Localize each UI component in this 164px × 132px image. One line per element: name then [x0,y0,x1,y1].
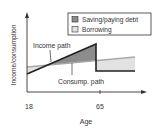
consumption-path-annotation: Consump. path [58,78,104,86]
x-axis-arrow-icon [141,90,147,94]
legend-swatch-borrowing [72,27,78,33]
x-tick-label-18: 18 [25,103,33,110]
income-path-leader [50,50,51,62]
chart: 18 65 Age Income/consumption Income path… [0,0,164,132]
legend: Saving/paying debt Borrowing [68,13,151,35]
y-axis-label: Income/consumption [10,24,18,85]
income-path-annotation: Income path [33,42,71,50]
x-axis-label: Age [80,118,93,126]
y-axis-arrow-icon [25,12,29,18]
legend-label-saving: Saving/paying debt [82,16,138,24]
legend-label-borrowing: Borrowing [82,26,112,34]
x-tick-label-65: 65 [96,103,104,110]
legend-swatch-saving [72,17,78,23]
